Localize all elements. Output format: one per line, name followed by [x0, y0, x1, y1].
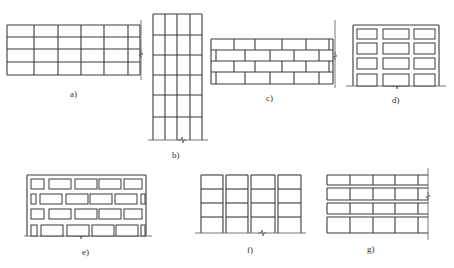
infill-block [66, 194, 88, 204]
figure-d [346, 25, 446, 89]
infill-block [49, 179, 71, 189]
infill-block [75, 209, 97, 219]
label-d: d) [392, 95, 400, 105]
figure-f [195, 175, 306, 236]
infill-panel [414, 29, 435, 39]
label-e: e) [82, 247, 89, 257]
infill-panel [383, 29, 409, 39]
infill-block [40, 194, 62, 204]
infill-block [31, 179, 44, 189]
infill-block [141, 225, 145, 236]
infill-panel [357, 58, 377, 69]
label-b: b) [172, 150, 180, 160]
infill-panel [383, 74, 409, 86]
label-g: g) [367, 244, 375, 254]
label-f: f) [247, 245, 253, 255]
figure-g [327, 168, 430, 240]
infill-block [31, 225, 37, 236]
infill-block [141, 194, 145, 204]
label-c: c) [266, 93, 273, 103]
diagram-canvas: a) b) c) d) e) f) g) [0, 0, 454, 268]
infill-block [41, 225, 63, 236]
infill-block [116, 225, 138, 236]
figure-e [24, 175, 152, 239]
infill-block [124, 209, 142, 219]
infill-block [90, 194, 112, 204]
infill-panel [414, 43, 435, 54]
infill-block [67, 225, 89, 236]
figure-b [148, 14, 208, 143]
infill-panel [414, 74, 435, 86]
infill-panel [357, 43, 377, 54]
infill-block [31, 194, 36, 204]
infill-block [124, 179, 142, 189]
infill-panel [357, 74, 377, 86]
infill-block [31, 209, 44, 219]
infill-block [115, 194, 137, 204]
label-a: a) [70, 89, 77, 99]
infill-block [99, 209, 121, 219]
figure-a [7, 20, 143, 80]
infill-block [92, 225, 114, 236]
infill-block [75, 179, 97, 189]
figure-c [211, 20, 337, 88]
infill-panel [357, 29, 377, 39]
infill-panel [383, 58, 409, 69]
infill-panel [414, 58, 435, 69]
infill-panel [383, 43, 409, 54]
infill-block [99, 179, 121, 189]
infill-block [49, 209, 71, 219]
